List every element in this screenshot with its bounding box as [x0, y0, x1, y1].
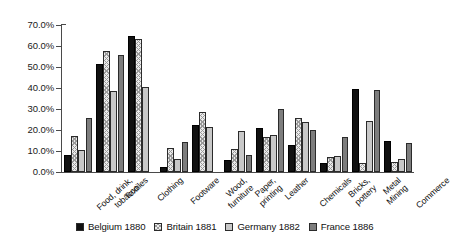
plot-area — [62, 25, 414, 172]
bar — [135, 39, 142, 172]
bar — [160, 167, 167, 172]
y-axis-tick — [56, 130, 61, 131]
y-axis-tick-label: 10.0% — [28, 146, 54, 155]
bar — [302, 122, 309, 172]
legend-item: Germany 1882 — [225, 221, 299, 232]
y-axis-tick-label: 0.0% — [33, 167, 54, 176]
bar-group — [320, 25, 352, 172]
legend-item: France 1886 — [309, 221, 374, 232]
x-axis-category-label: Leather — [283, 176, 311, 202]
x-axis-category-label: MetalMining — [378, 176, 409, 207]
bar — [256, 128, 263, 172]
bar — [366, 121, 373, 172]
bar — [110, 91, 117, 172]
bar-group — [256, 25, 288, 172]
bar — [278, 109, 285, 172]
y-axis-tick-label: 50.0% — [28, 62, 54, 71]
bar — [174, 159, 181, 172]
bar — [352, 89, 359, 172]
bar — [231, 149, 238, 172]
y-axis-tick-label: 40.0% — [28, 83, 54, 92]
chart-legend: Belgium 1880Britain 1881Germany 1882Fran… — [76, 221, 374, 232]
x-axis-category-label: Footware — [189, 176, 221, 207]
bar — [270, 135, 277, 172]
bar-group — [160, 25, 192, 172]
bar — [118, 55, 125, 172]
bar — [359, 163, 366, 172]
x-axis-line — [61, 172, 414, 173]
bar — [398, 159, 405, 172]
y-axis-tick — [56, 88, 61, 89]
x-axis-category-label: Paper,printing — [251, 176, 284, 209]
y-axis-tick-label: 70.0% — [28, 20, 54, 29]
bar-group — [352, 25, 384, 172]
legend-swatch-icon — [76, 223, 84, 231]
bar — [86, 118, 93, 172]
legend-label: Britain 1881 — [166, 221, 216, 232]
bar — [182, 142, 189, 172]
legend-swatch-icon — [309, 223, 317, 231]
legend-item: Belgium 1880 — [76, 221, 145, 232]
bar — [406, 143, 413, 172]
bar — [263, 137, 270, 172]
bar — [78, 150, 85, 172]
bar — [327, 157, 334, 172]
bar — [391, 162, 398, 173]
y-axis-tick — [56, 67, 61, 68]
bar-group — [384, 25, 416, 172]
y-axis-tick — [56, 172, 61, 173]
bar — [71, 136, 78, 172]
x-axis-category-label-line: Leather — [283, 176, 311, 202]
bar-group — [288, 25, 320, 172]
bar — [128, 36, 135, 173]
y-axis-tick — [56, 46, 61, 47]
legend-swatch-icon — [225, 223, 233, 231]
legend-item: Britain 1881 — [154, 221, 216, 232]
bar — [64, 155, 71, 172]
bar — [224, 160, 231, 172]
legend-label: Belgium 1880 — [88, 221, 145, 232]
bar — [142, 87, 149, 172]
bar-group — [192, 25, 224, 172]
bar-group — [224, 25, 256, 172]
y-axis-tick — [56, 109, 61, 110]
y-axis-tick-label: 20.0% — [28, 125, 54, 134]
x-axis-category-label-line: Commerce — [415, 176, 452, 211]
bar — [288, 145, 295, 172]
legend-label: Germany 1882 — [237, 221, 299, 232]
bar — [103, 51, 110, 172]
x-axis-category-label: Commerce — [415, 176, 452, 211]
bar — [310, 130, 317, 172]
bar — [199, 112, 206, 172]
y-axis-tick — [56, 25, 61, 26]
bar — [246, 155, 253, 172]
bar-group — [96, 25, 128, 172]
bar — [167, 148, 174, 172]
bar-group — [64, 25, 96, 172]
y-axis-tick-label: 30.0% — [28, 104, 54, 113]
bar — [192, 125, 199, 172]
bar — [96, 64, 103, 172]
bar — [320, 163, 327, 172]
x-axis-category-label: Clothing — [156, 176, 185, 204]
bar-group — [128, 25, 160, 172]
y-axis-tick-label: 60.0% — [28, 41, 54, 50]
bar — [334, 156, 341, 172]
bar — [206, 127, 213, 172]
y-axis-tick — [56, 151, 61, 152]
bar — [384, 141, 391, 173]
bar — [342, 137, 349, 172]
bar — [238, 131, 245, 172]
bar — [295, 118, 302, 172]
legend-label: France 1886 — [321, 221, 374, 232]
x-axis-category-label-line: Footware — [189, 176, 221, 207]
legend-swatch-icon — [154, 223, 162, 231]
x-axis-category-label-line: Clothing — [156, 176, 185, 204]
bar — [374, 90, 381, 172]
